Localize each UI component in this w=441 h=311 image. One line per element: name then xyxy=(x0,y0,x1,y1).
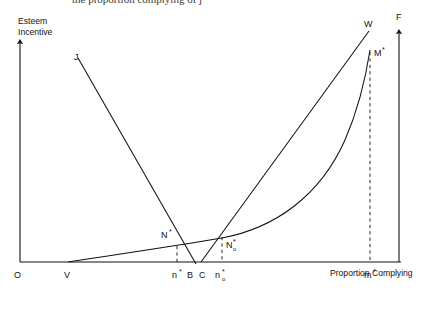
y-axis-label-line2: Incentive xyxy=(18,27,53,37)
svg-text:o: o xyxy=(233,246,237,252)
j-line xyxy=(78,58,196,264)
svg-text:*: * xyxy=(222,268,225,275)
svg-text:*: * xyxy=(233,238,236,245)
tick-label-n0-star: n o * xyxy=(215,268,226,282)
curve-label-f: F xyxy=(396,12,402,22)
svg-text:*: * xyxy=(373,268,376,275)
svg-text:M: M xyxy=(374,48,382,58)
tick-label-m-star: m * xyxy=(364,268,376,280)
esteem-incentive-diagram: Esteem Incentive Proportion Complying O … xyxy=(0,0,441,311)
tick-label-v: V xyxy=(64,270,70,280)
y-axis-label-line1: Esteem xyxy=(18,16,47,26)
point-label-n-star: N * xyxy=(161,228,172,240)
point-label-n0-star: N o * xyxy=(226,238,237,252)
curve-label-j: J xyxy=(74,52,79,62)
svg-text:*: * xyxy=(169,228,172,235)
tick-label-c: C xyxy=(199,270,206,280)
svg-text:n: n xyxy=(172,270,177,280)
svg-text:o: o xyxy=(222,276,226,282)
esteem-curve xyxy=(68,50,370,262)
point-label-m-star: M * xyxy=(374,46,385,58)
svg-text:n: n xyxy=(215,270,220,280)
svg-text:m: m xyxy=(364,270,372,280)
w-line xyxy=(201,31,369,262)
svg-text:N: N xyxy=(226,240,233,250)
diagram-canvas: Esteem Incentive Proportion Complying O … xyxy=(0,0,441,311)
origin-label: O xyxy=(14,270,21,280)
svg-text:N: N xyxy=(161,230,168,240)
curve-label-w: W xyxy=(364,19,373,29)
tick-label-b: B xyxy=(187,270,193,280)
tick-label-n-star: n * xyxy=(172,268,182,280)
svg-text:*: * xyxy=(179,268,182,275)
svg-text:*: * xyxy=(382,46,385,53)
